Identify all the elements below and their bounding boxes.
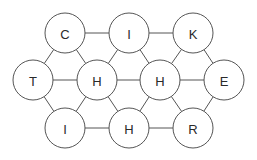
node-label: H bbox=[92, 74, 101, 89]
node-k: K bbox=[173, 13, 213, 53]
node-label: H bbox=[124, 122, 133, 137]
letter-grid-diagram: C I K T H H E I H R bbox=[0, 0, 257, 160]
node-h-bottom: H bbox=[109, 108, 149, 148]
node-h-left: H bbox=[77, 60, 117, 100]
node-label: I bbox=[127, 27, 131, 42]
node-label: R bbox=[188, 122, 197, 137]
node-label: T bbox=[29, 74, 37, 89]
node-label: I bbox=[63, 122, 67, 137]
node-i-bottom: I bbox=[45, 108, 85, 148]
node-h-right: H bbox=[140, 60, 180, 100]
node-label: C bbox=[60, 27, 69, 42]
node-t: T bbox=[13, 60, 53, 100]
node-label: E bbox=[220, 74, 229, 89]
node-c: C bbox=[45, 13, 85, 53]
node-label: H bbox=[155, 74, 164, 89]
node-i-top: I bbox=[109, 13, 149, 53]
node-r: R bbox=[173, 108, 213, 148]
node-label: K bbox=[189, 27, 198, 42]
node-e: E bbox=[204, 60, 244, 100]
